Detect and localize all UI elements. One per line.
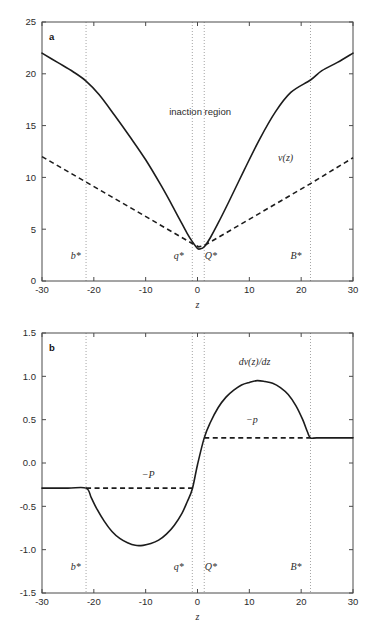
annotation-p: −P [142,469,155,480]
y-tick-label: 1.0 [23,371,36,382]
x-tick-label: -20 [87,284,101,295]
plot-frame [42,22,353,281]
x-tick-label: 20 [296,596,307,607]
y-tick-label: 0 [31,275,36,286]
x-tick-label: -30 [35,284,49,295]
annotation-b: B* [290,561,301,572]
series-tangent-bound [42,157,353,247]
y-tick-label: 15 [25,120,36,131]
x-axis-label: z [195,299,200,310]
series-v-z- [42,53,353,249]
annotation-q: q* [174,250,184,261]
panel-letter: b [49,342,55,353]
x-tick-label: 0 [195,596,200,607]
annotation-inactionregion: inaction region [169,106,231,117]
panel-b-svg: -30-20-100102030-1.5-1.0-0.50.00.51.01.5… [0,310,377,637]
panel-b: -30-20-100102030-1.5-1.0-0.50.00.51.01.5… [0,310,377,637]
annotation-q: q* [174,561,184,572]
figure-container: -30-20-1001020300510152025inaction regio… [0,0,377,637]
x-tick-label: 30 [348,596,359,607]
y-tick-label: 0.0 [23,457,36,468]
annotation-dvzdz: dv(z)/dz [239,356,271,368]
panel-letter: a [49,31,55,42]
annotation-q: Q* [205,561,217,572]
x-tick-label: -20 [87,596,101,607]
annotation-b: b* [71,250,81,261]
x-tick-label: 10 [244,284,255,295]
series-dv-z--dz [42,381,353,546]
panel-a: -30-20-1001020300510152025inaction regio… [0,0,377,310]
panel-a-svg: -30-20-1001020300510152025inaction regio… [0,0,377,310]
annotation-p: −p [246,414,258,425]
y-tick-label: 5 [31,224,36,235]
x-tick-label: -10 [139,596,153,607]
x-axis-label: z [195,611,200,622]
y-tick-label: 10 [25,172,36,183]
x-tick-label: 30 [348,284,359,295]
x-tick-label: 20 [296,284,307,295]
y-tick-label: -0.5 [20,501,36,512]
y-tick-label: 0.5 [23,414,36,425]
y-tick-label: 20 [25,68,36,79]
x-tick-label: 0 [195,284,200,295]
y-tick-label: 25 [25,16,36,27]
y-tick-label: -1.5 [20,587,36,598]
x-tick-label: 10 [244,596,255,607]
y-tick-label: 1.5 [23,327,36,338]
x-tick-label: -10 [139,284,153,295]
annotation-b: B* [290,250,301,261]
annotation-q: Q* [205,250,217,261]
annotation-b: b* [71,561,81,572]
annotation-vz: v(z) [278,152,294,164]
y-tick-label: -1.0 [20,544,36,555]
x-tick-label: -30 [35,596,49,607]
